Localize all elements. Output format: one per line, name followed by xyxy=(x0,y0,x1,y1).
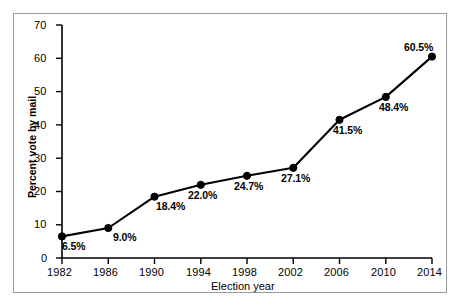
chart-figure: 70 60 50 40 30 20 10 0 1982 1986 1990 19… xyxy=(0,0,461,306)
x-tick-label-2014: 2014 xyxy=(417,266,442,278)
data-point-markers xyxy=(58,53,435,240)
x-tick-label-1982: 1982 xyxy=(47,266,72,278)
data-label-1982: 6.5% xyxy=(62,240,86,252)
y-tick-label-70: 70 xyxy=(34,19,46,31)
x-axis-title: Election year xyxy=(211,280,275,292)
x-tick-label-2010: 2010 xyxy=(371,266,396,278)
y-tick-label-0: 0 xyxy=(41,252,47,264)
x-tick-label-1986: 1986 xyxy=(93,266,118,278)
data-series-line xyxy=(62,57,432,237)
x-axis-ticks xyxy=(62,258,432,264)
data-point-marker xyxy=(243,172,250,179)
data-label-1990: 18.4% xyxy=(156,200,185,212)
x-tick-label-1990: 1990 xyxy=(139,266,164,278)
data-point-marker xyxy=(382,93,389,100)
data-label-1986: 9.0% xyxy=(113,231,137,243)
y-tick-label-10: 10 xyxy=(34,218,46,230)
chart-plot-svg xyxy=(0,0,461,306)
data-point-marker xyxy=(290,164,297,171)
data-label-2002: 27.1% xyxy=(281,172,310,184)
x-tick-label-1998: 1998 xyxy=(232,266,257,278)
x-tick-label-2006: 2006 xyxy=(324,266,349,278)
y-axis-title: Percent vote by mail xyxy=(26,96,38,198)
data-point-marker xyxy=(105,224,112,231)
data-label-1998: 24.7% xyxy=(234,180,263,192)
x-tick-label-1994: 1994 xyxy=(186,266,211,278)
y-tick-label-60: 60 xyxy=(34,52,46,64)
data-point-marker xyxy=(428,53,435,60)
y-axis-ticks xyxy=(56,25,62,258)
data-point-marker xyxy=(336,116,343,123)
data-label-2014: 60.5% xyxy=(404,41,433,53)
x-tick-label-2002: 2002 xyxy=(278,266,303,278)
data-point-marker xyxy=(197,181,204,188)
data-label-2010: 48.4% xyxy=(379,101,408,113)
data-label-2006: 41.5% xyxy=(333,124,362,136)
data-label-1994: 22.0% xyxy=(188,189,217,201)
data-point-marker xyxy=(58,233,65,240)
